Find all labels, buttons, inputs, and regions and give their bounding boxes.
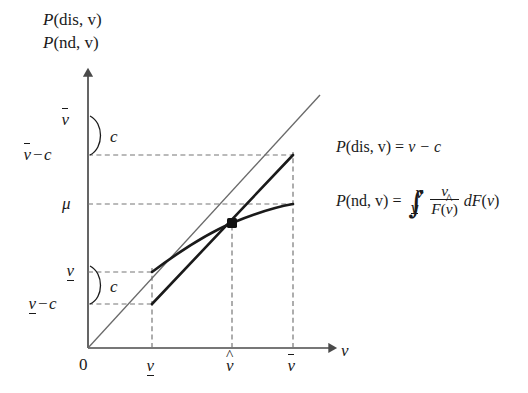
eq-dis-equals: = <box>395 138 404 155</box>
eq-nd-p: P <box>336 192 346 209</box>
reference-45-degree-line <box>88 95 320 348</box>
y-tick-label-v-low: v <box>66 262 75 279</box>
integrand-fraction: v F(v) <box>430 182 458 218</box>
eq-dis-args: (dis, v) <box>346 138 391 155</box>
x-axis-label: v <box>341 342 349 359</box>
eq-nd-equals: = <box>392 192 401 209</box>
eq-dis-p: P <box>336 138 346 155</box>
brace-label-c-top: c <box>110 128 118 145</box>
intersection-dot <box>227 218 237 228</box>
differential-symbol: dF <box>464 192 482 209</box>
header-labels: P(dis, v) P(nd, v) <box>43 10 102 56</box>
differential-arg: (v) <box>482 192 500 209</box>
integral-sign: ∫ v v <box>408 194 424 213</box>
brace-label-c-bottom: c <box>110 278 118 295</box>
x-tick-label-v-bar: v <box>287 357 296 374</box>
economics-payoff-diagram: P(dis, v) P(nd, v) v v − c μ v v − c c c… <box>0 0 528 393</box>
y-tick-label-v-bar-minus-c: v − c <box>23 146 52 163</box>
integral-upper-limit: v <box>415 189 423 198</box>
integrand-denominator: F(v) <box>430 200 458 218</box>
integrand-numerator: v <box>430 182 458 200</box>
header-p-symbol-dis: P <box>43 10 53 29</box>
origin-label: 0 <box>79 356 88 373</box>
brace-arc-top <box>90 116 101 155</box>
x-tick-label-v-hat: v <box>226 357 234 374</box>
curve-p-nd <box>152 204 293 272</box>
integral-lower-limit: v <box>410 204 419 213</box>
header-args-nd: (nd, v) <box>53 33 98 52</box>
header-line-p-dis: P(dis, v) <box>43 10 102 30</box>
equation-p-dis: P(dis, v) = v − c <box>336 139 441 155</box>
denominator-f: F <box>431 200 440 217</box>
header-p-symbol-nd: P <box>43 33 53 52</box>
eq-nd-args: (nd, v) <box>346 192 389 209</box>
equation-p-nd: P(nd, v) = ∫ v v v F(v) dF(v) <box>336 182 499 218</box>
header-args-dis: (dis, v) <box>53 10 101 29</box>
x-tick-label-v-low: v <box>146 357 155 374</box>
y-tick-label-v-bar: v <box>61 111 70 128</box>
y-tick-label-mu: μ <box>62 195 71 212</box>
y-tick-label-v-low-minus-c: v − c <box>28 295 57 312</box>
line-p-dis <box>152 155 293 304</box>
eq-dis-rhs: v − c <box>408 138 441 155</box>
header-line-p-nd: P(nd, v) <box>43 33 102 53</box>
